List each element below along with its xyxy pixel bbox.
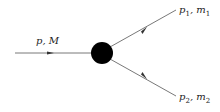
p1-index: 1 xyxy=(185,10,189,18)
m1-symbol: m xyxy=(196,4,205,15)
incoming-mass: M xyxy=(49,35,59,46)
m2-symbol: m xyxy=(196,91,205,102)
m2-index: 2 xyxy=(206,97,210,105)
incoming-arrow-icon xyxy=(47,52,54,55)
m1-index: 1 xyxy=(206,10,210,18)
incoming-momentum: p xyxy=(36,35,42,46)
outgoing-line-1 xyxy=(110,10,176,47)
incoming-label: p, M xyxy=(36,36,59,46)
outgoing-line-2 xyxy=(110,59,176,96)
outgoing-label-2: p2, m2 xyxy=(179,92,210,105)
vertex-blob xyxy=(91,42,113,64)
p2-index: 2 xyxy=(185,97,189,105)
outgoing-label-1: p1, m1 xyxy=(179,5,210,18)
